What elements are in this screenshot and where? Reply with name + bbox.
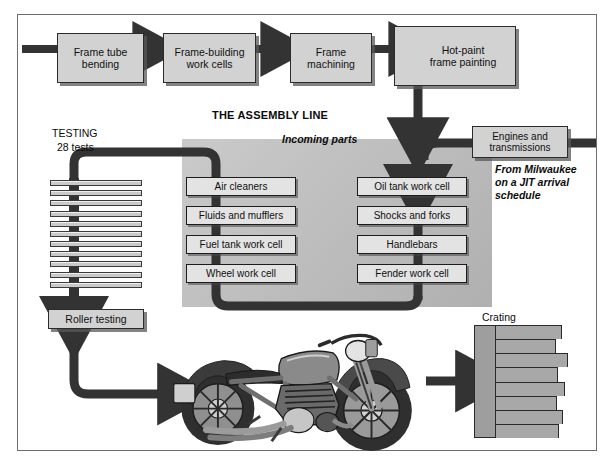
crate-row: [496, 353, 568, 367]
crate-row: [496, 410, 563, 424]
process-box-roller-testing[interactable]: Roller testing: [48, 309, 144, 329]
crate-row: [496, 382, 565, 396]
testing-slat: [50, 272, 142, 278]
assembly-line-title: THE ASSEMBLY LINE: [212, 109, 328, 121]
work-cell-label: Fender work cell: [375, 268, 448, 279]
work-cell-label: Fluids and mufflers: [199, 210, 283, 221]
work-cell-fuel-tank[interactable]: Fuel tank work cell: [186, 235, 296, 254]
work-cell-oil-tank[interactable]: Oil tank work cell: [357, 177, 467, 196]
testing-slat-stack: [50, 180, 142, 292]
crate-row: [496, 424, 559, 438]
process-box-frame-building-work-cells[interactable]: Frame-building work cells: [163, 33, 256, 83]
work-cell-label: Air cleaners: [215, 181, 268, 192]
process-box-label: Frame tube bending: [74, 46, 128, 71]
work-cell-shocks-and-forks[interactable]: Shocks and forks: [357, 206, 467, 225]
testing-slat: [50, 282, 142, 288]
testing-slat: [50, 231, 142, 237]
process-box-frame-machining[interactable]: Frame machining: [290, 33, 372, 83]
crate-row: [496, 325, 562, 339]
crate-row: [496, 396, 557, 410]
incoming-parts-label: Incoming parts: [282, 133, 357, 145]
work-cell-fluids-and-mufflers[interactable]: Fluids and mufflers: [186, 206, 296, 225]
diagram-canvas: Frame tube bending Frame-building work c…: [0, 0, 613, 476]
engines-source-note: From Milwaukee on a JIT arrival schedule: [495, 163, 577, 202]
crating-label: Crating: [482, 311, 516, 324]
process-box-label: Roller testing: [65, 313, 126, 326]
process-box-hot-paint-frame-painting[interactable]: Hot-paint frame painting: [394, 26, 516, 86]
testing-slat: [50, 261, 142, 267]
testing-slat: [50, 180, 142, 186]
testing-slat: [50, 251, 142, 257]
crating-stack: [474, 325, 566, 438]
testing-slat: [50, 200, 142, 206]
work-cell-air-cleaners[interactable]: Air cleaners: [186, 177, 296, 196]
testing-slat: [50, 211, 142, 217]
process-box-label: Frame machining: [307, 46, 355, 71]
work-cell-wheel[interactable]: Wheel work cell: [186, 264, 296, 283]
work-cell-label: Handlebars: [386, 239, 437, 250]
crate-row: [496, 367, 558, 381]
process-box-label: Hot-paint frame painting: [414, 44, 497, 69]
process-box-engines-and-transmissions[interactable]: Engines and transmissions: [472, 126, 568, 158]
testing-slat: [50, 221, 142, 227]
work-cell-handlebars[interactable]: Handlebars: [357, 235, 467, 254]
testing-count: 28 tests: [57, 141, 94, 154]
crate-front-face: [474, 325, 496, 438]
testing-slat: [50, 241, 142, 247]
testing-heading: TESTING: [52, 127, 98, 140]
work-cell-fender[interactable]: Fender work cell: [357, 264, 467, 283]
process-box-label: Frame-building work cells: [174, 46, 244, 71]
crate-row: [496, 339, 556, 353]
process-box-frame-tube-bending[interactable]: Frame tube bending: [57, 33, 144, 83]
work-cell-label: Oil tank work cell: [374, 181, 450, 192]
work-cell-label: Wheel work cell: [206, 268, 276, 279]
testing-slat: [50, 190, 142, 196]
process-box-label: Engines and transmissions: [489, 131, 550, 154]
work-cell-label: Fuel tank work cell: [200, 239, 283, 250]
work-cell-label: Shocks and forks: [374, 210, 451, 221]
